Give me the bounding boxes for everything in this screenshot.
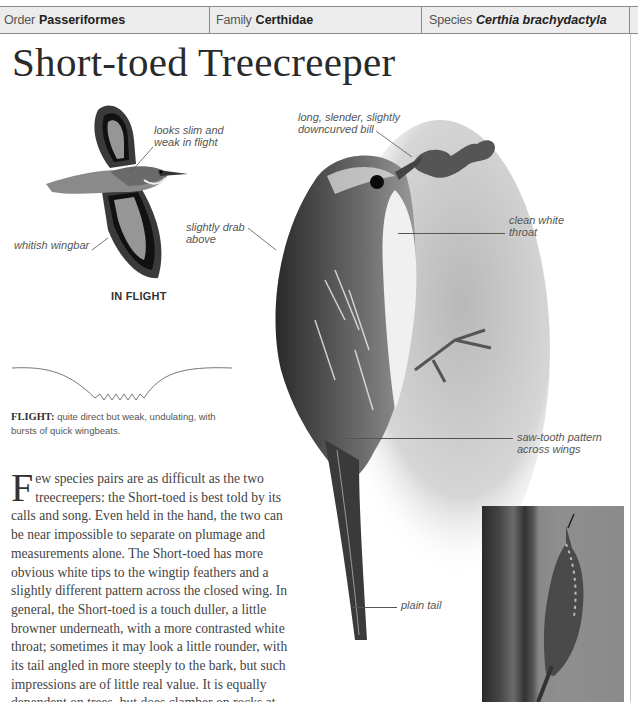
- family-label: Family: [216, 13, 252, 27]
- treecreeper-photo: [482, 506, 624, 702]
- taxonomy-order: Order Passeriformes: [0, 7, 210, 33]
- leader-line: [345, 438, 513, 439]
- annotation-whitish-wingbar: whitish wingbar: [14, 239, 89, 251]
- flight-label: FLIGHT:: [11, 411, 55, 422]
- annotation-saw-tooth-pattern: saw-tooth pattern across wings: [517, 431, 602, 455]
- page-edge-rule: [630, 34, 631, 702]
- leader-line: [92, 236, 112, 256]
- flight-description: FLIGHT: quite direct but weak, undulatin…: [11, 410, 241, 438]
- leader-line: [248, 228, 278, 252]
- in-flight-caption: IN FLIGHT: [111, 290, 167, 302]
- annotation-text: long, slender, slightly: [298, 111, 400, 123]
- flight-path-diagram: [10, 360, 235, 410]
- order-label: Order: [4, 13, 35, 27]
- annotation-plain-tail: plain tail: [401, 599, 441, 611]
- annotation-text: across wings: [517, 443, 602, 455]
- leader-line: [398, 233, 505, 234]
- order-value: Passeriformes: [39, 13, 125, 27]
- annotation-text: weak in flight: [154, 136, 224, 148]
- annotation-text: slightly drab: [186, 221, 245, 233]
- annotation-text: above: [186, 233, 245, 245]
- annotation-text: clean white: [509, 214, 564, 226]
- photo-bird-silhouette: [482, 506, 624, 702]
- annotation-text: throat: [509, 226, 564, 238]
- drop-cap: F: [11, 472, 33, 504]
- annotation-text: plain tail: [401, 599, 441, 611]
- family-value: Certhidae: [256, 13, 314, 27]
- taxonomy-species: Species Certhia brachydactyla: [422, 7, 630, 33]
- taxonomy-header: Order Passeriformes Family Certhidae Spe…: [0, 6, 638, 34]
- annotation-slim-in-flight: looks slim and weak in flight: [154, 124, 224, 148]
- taxonomy-family: Family Certhidae: [210, 7, 422, 33]
- leader-line: [353, 607, 397, 608]
- description-text: ew species pairs are as difficult as the…: [11, 471, 287, 702]
- annotation-drab-above: slightly drab above: [186, 221, 245, 245]
- annotation-text: whitish wingbar: [14, 239, 89, 251]
- leader-line: [128, 145, 158, 175]
- species-label: Species: [429, 13, 472, 27]
- page-title: Short-toed Treecreeper: [12, 38, 395, 86]
- field-guide-page: Order Passeriformes Family Certhidae Spe…: [0, 0, 638, 702]
- annotation-text: saw-tooth pattern: [517, 431, 602, 443]
- annotation-text: looks slim and: [154, 124, 224, 136]
- species-value: Certhia brachydactyla: [476, 13, 607, 27]
- annotation-white-throat: clean white throat: [509, 214, 564, 238]
- leader-line: [376, 131, 416, 161]
